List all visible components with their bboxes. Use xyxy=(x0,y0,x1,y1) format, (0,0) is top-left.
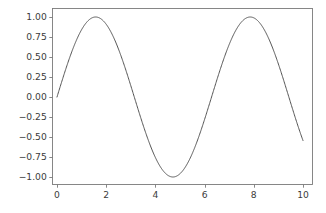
x-tick-label: 2 xyxy=(103,190,109,199)
y-tick-label: −0.25 xyxy=(19,112,47,121)
x-tick-label: 0 xyxy=(54,190,60,199)
x-tick-label: 4 xyxy=(152,190,158,199)
series-line-sin(x) xyxy=(57,17,303,177)
axes-frame xyxy=(53,9,313,185)
y-tick-label: 1.00 xyxy=(26,12,46,21)
y-tick-label: −0.75 xyxy=(19,152,47,161)
y-tick-label: 0.00 xyxy=(26,92,46,101)
x-tick-label: 6 xyxy=(202,190,208,199)
axis-tick-marks xyxy=(49,18,303,188)
y-tick-label: 0.50 xyxy=(26,52,46,61)
y-tick-label: 0.75 xyxy=(26,32,46,41)
x-tick-label: 10 xyxy=(297,190,309,199)
matplotlib-figure: −1.00−0.75−0.50−0.250.000.250.500.751.00… xyxy=(0,0,326,213)
data-lines xyxy=(57,17,303,177)
axes-spines xyxy=(53,9,313,185)
x-tick-label: 8 xyxy=(251,190,257,199)
y-tick-label: −0.50 xyxy=(19,132,47,141)
y-tick-label: −1.00 xyxy=(19,172,47,181)
y-tick-label: 0.25 xyxy=(26,72,46,81)
plot-canvas xyxy=(0,0,326,213)
